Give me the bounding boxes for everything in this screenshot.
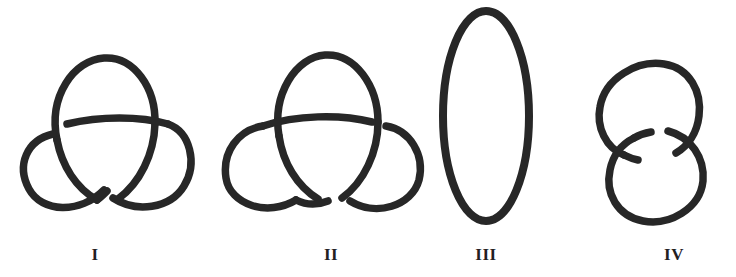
hopf-ring-upper-left-tail	[624, 155, 638, 160]
hopf-link-strands	[599, 63, 703, 221]
hopf-ring-lower-right-tail	[634, 132, 651, 138]
hopf-ring-lower-right	[609, 131, 703, 222]
figure-hopf-link	[0, 0, 736, 277]
figure-label-iii: III	[475, 246, 496, 263]
figure-label-iv: IV	[664, 246, 684, 263]
figure-label-ii: II	[324, 246, 338, 263]
knot-diagram-plate: I II III IV	[0, 0, 736, 277]
figure-label-i: I	[91, 246, 98, 263]
